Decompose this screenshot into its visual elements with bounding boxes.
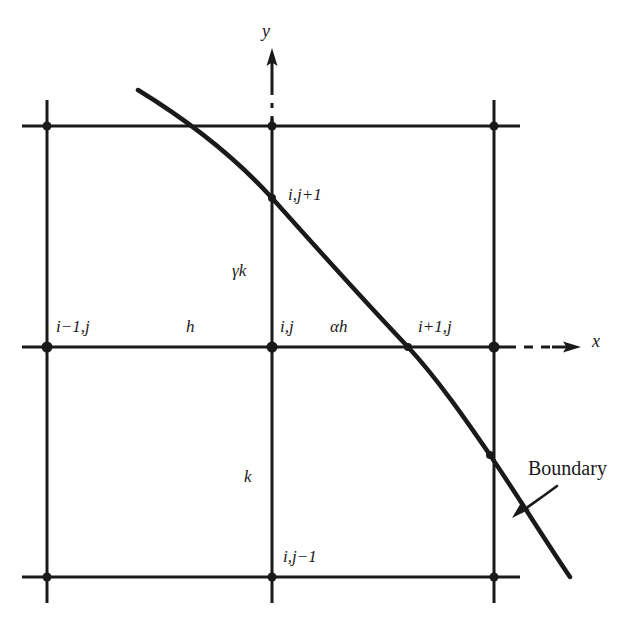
boundary-node-i-plus-1-j xyxy=(404,343,412,351)
label-node-i-minus-1-j: i−1,j xyxy=(56,318,90,335)
node-dot-i-minus-1-j xyxy=(42,342,53,353)
figure-canvas xyxy=(0,0,636,626)
boundary-node-i-j-plus-1 xyxy=(268,194,276,202)
label-spacing-gamma-k: γk xyxy=(232,262,246,279)
label-node-i-plus-1-j: i+1,j xyxy=(418,318,452,335)
x-axis-label: x xyxy=(592,332,600,350)
node-dot xyxy=(490,573,499,582)
label-spacing-h: h xyxy=(186,318,195,335)
node-dot xyxy=(490,122,499,131)
node-dot xyxy=(43,573,52,582)
boundary-callout-arrow-shaft xyxy=(521,486,557,512)
node-dot-i-j-minus-1 xyxy=(268,573,277,582)
node-dot-i-j xyxy=(267,342,278,353)
label-spacing-k: k xyxy=(244,468,252,485)
label-node-i-j-minus-1: i,j−1 xyxy=(283,548,317,565)
label-spacing-alpha-h: αh xyxy=(330,318,347,335)
y-axis-label: y xyxy=(262,22,270,40)
finite-difference-grid-figure: y x i,j+1 γk i−1,j h i,j αh i+1,j k i,j−… xyxy=(0,0,636,626)
node-dot-i-plus-1-j xyxy=(489,342,500,353)
label-node-i-j: i,j xyxy=(280,318,294,335)
boundary-node-right-line xyxy=(486,451,494,459)
label-node-i-j-plus-1: i,j+1 xyxy=(288,186,322,203)
node-dot xyxy=(43,122,52,131)
label-boundary: Boundary xyxy=(528,458,607,478)
boundary-curve xyxy=(138,90,570,577)
